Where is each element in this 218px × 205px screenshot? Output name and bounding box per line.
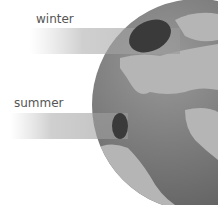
winter-label: winter bbox=[36, 12, 74, 26]
summer-spot bbox=[112, 113, 128, 139]
summer-label: summer bbox=[14, 96, 64, 110]
summer-beam bbox=[10, 113, 128, 139]
